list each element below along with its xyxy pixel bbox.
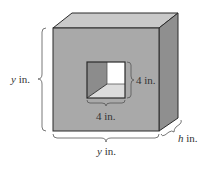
height-brace xyxy=(38,28,46,131)
box-top-face xyxy=(53,13,178,28)
depth-label: h in. xyxy=(178,132,198,144)
width-brace xyxy=(53,134,159,142)
hole-height-label: 4 in. xyxy=(136,74,156,86)
hole-width-label: 4 in. xyxy=(96,110,116,122)
box-right-face xyxy=(159,13,178,131)
height-label: y in. xyxy=(10,73,30,85)
box-with-hole-diagram: y in. y in. 4 in. 4 in. h in. xyxy=(0,0,208,171)
square-hole xyxy=(87,62,125,98)
width-label: y in. xyxy=(96,145,116,157)
